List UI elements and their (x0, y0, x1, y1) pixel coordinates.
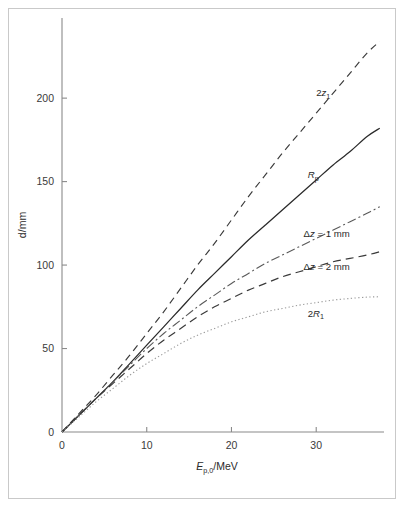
curve-label-dz2mm: Δz = 2 mm (304, 261, 350, 272)
x-axis-title: Ep,0/MeV (196, 460, 238, 475)
y-tick-label-150: 150 (36, 175, 54, 187)
x-tick-label-10: 10 (141, 439, 153, 451)
y-tick-label-50: 50 (42, 342, 54, 354)
tick-labels-group: 0501001502000102030 (36, 92, 322, 451)
ticks-group (62, 98, 316, 432)
curve-label-2R1: 2R1 (308, 308, 324, 322)
curve-label-Rp: Rp (308, 169, 319, 183)
y-axis-title: d/mm (16, 212, 28, 239)
x-tick-label-0: 0 (59, 439, 65, 451)
y-tick-label-0: 0 (48, 426, 54, 438)
series-curve-dz1mm (62, 207, 380, 432)
figure-root: 0501001502000102030 Ep,0/MeVd/mm 2z1RpΔz… (0, 0, 404, 507)
y-tick-label-100: 100 (36, 259, 54, 271)
series-curve-dz2mm (62, 252, 380, 432)
curve-labels-group: 2z1RpΔz = 1 mmΔz = 2 mm2R1 (304, 87, 350, 321)
x-tick-label-20: 20 (226, 439, 238, 451)
series-curve-2R1 (62, 297, 380, 432)
curve-label-2z1: 2z1 (316, 87, 330, 101)
x-tick-label-30: 30 (310, 439, 322, 451)
curve-label-dz1mm: Δz = 1 mm (304, 228, 350, 239)
axes-group (62, 18, 384, 432)
chart-canvas: 0501001502000102030 Ep,0/MeVd/mm 2z1RpΔz… (0, 0, 404, 507)
y-tick-label-200: 200 (36, 92, 54, 104)
